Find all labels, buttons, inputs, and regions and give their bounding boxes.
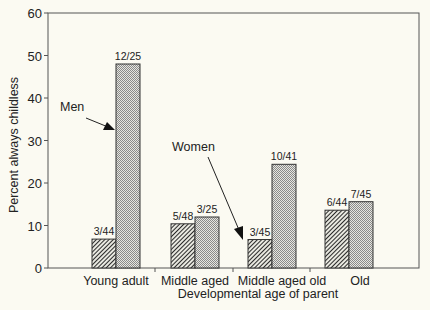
bar-value-label: 3/45	[250, 226, 271, 238]
women-bar	[171, 224, 195, 268]
bar-value-label: 7/45	[351, 188, 372, 200]
men-bar	[349, 202, 373, 268]
women-bar	[248, 240, 272, 268]
y-tick-label: 40	[28, 91, 42, 106]
bar-value-label: 12/25	[115, 50, 141, 62]
y-tick-label: 0	[35, 261, 42, 276]
bar-value-label: 3/44	[94, 225, 115, 237]
bar-chart: 0102030405060 Young adultMiddle agedMidd…	[0, 0, 430, 310]
y-tick-label: 30	[28, 134, 42, 149]
women-bar	[92, 239, 116, 268]
women-bar	[325, 210, 349, 268]
x-category-label: Old	[350, 274, 370, 288]
y-axis: 0102030405060	[28, 6, 48, 276]
y-tick-label: 20	[28, 176, 42, 191]
men-bar	[272, 164, 296, 268]
y-axis-title: Percent always childless	[7, 77, 21, 213]
x-category-label: Young adult	[83, 274, 149, 288]
x-axis-title: Developmental age of parent	[178, 287, 339, 301]
y-tick-label: 10	[28, 219, 42, 234]
bar-value-label: 10/41	[271, 150, 297, 162]
bar-value-label: 5/48	[173, 210, 194, 222]
men-bar	[116, 64, 140, 268]
men-annotation: Men	[60, 100, 115, 130]
women-arrowhead-icon	[234, 226, 243, 240]
bar-value-label: 3/25	[197, 203, 218, 215]
x-category-label: Middle aged old	[238, 274, 326, 288]
men-bar	[195, 217, 219, 268]
y-tick-label: 50	[28, 49, 42, 64]
women-annotation-label: Women	[172, 140, 215, 154]
men-arrow-icon	[86, 118, 108, 127]
men-annotation-label: Men	[60, 100, 84, 114]
x-category-label: Middle aged	[161, 274, 229, 288]
bars: 3/4412/255/483/253/4510/416/447/45	[92, 50, 373, 268]
y-tick-label: 60	[28, 6, 42, 21]
x-axis: Young adultMiddle agedMiddle aged oldOld	[83, 268, 370, 288]
bar-value-label: 6/44	[327, 196, 348, 208]
